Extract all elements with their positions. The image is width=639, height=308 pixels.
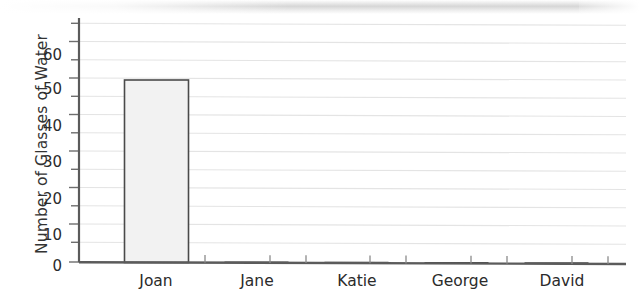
x-tick-label-katie: Katie: [337, 272, 376, 290]
x-tick-label-george: George: [432, 272, 489, 290]
gridline-55: [79, 60, 626, 62]
gridline-65: [79, 23, 626, 25]
x-tick-label-joan: Joan: [139, 272, 172, 290]
bar-chart: Number of Glasses of Water 60 50 40 30 2…: [0, 0, 639, 308]
plot-area: [0, 0, 639, 308]
bar-joan[interactable]: [125, 80, 189, 263]
gridline-60: [79, 42, 626, 44]
x-tick-label-david: David: [540, 272, 585, 290]
y-axis-ticks: [69, 23, 79, 262]
x-tick-label-jane: Jane: [240, 272, 273, 290]
